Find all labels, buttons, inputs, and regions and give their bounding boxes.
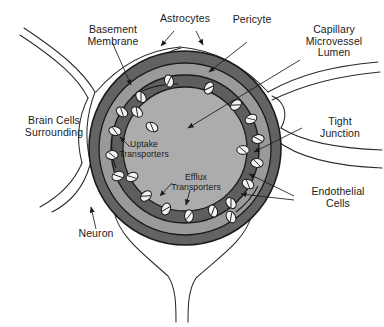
label-astrocytes: Astrocytes xyxy=(145,13,225,25)
label-endothelial-cells: Endothelial Cells xyxy=(296,186,380,209)
label-tight-junction: Tight Junction xyxy=(303,116,377,139)
label-efflux-transporters: Efflux Transporters xyxy=(158,173,234,192)
label-capillary-lumen: Capillary Microvessel Lumen xyxy=(288,24,380,59)
bbb-diagram-canvas: Basement Membrane Astrocytes Pericyte Ca… xyxy=(0,0,384,327)
label-uptake-transporters: Uptake Transporters xyxy=(108,140,180,159)
label-brain-cells-surrounding: Brain Cells Surrounding xyxy=(6,115,102,138)
label-basement-membrane: Basement Membrane xyxy=(68,24,158,47)
label-pericyte: Pericyte xyxy=(222,14,282,26)
label-neuron: Neuron xyxy=(66,228,126,240)
